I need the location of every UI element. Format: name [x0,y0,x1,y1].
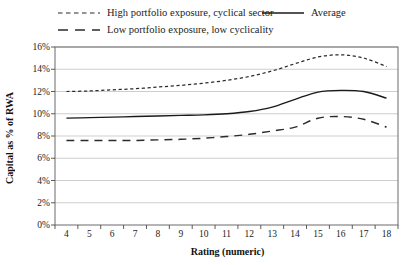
x-axis-tick-label: 17 [352,229,376,239]
x-axis-tick-label: 12 [237,229,261,239]
x-axis-tick-label: 15 [306,229,330,239]
x-axis-tick-label: 11 [215,229,239,239]
x-axis-tick-label: 18 [375,229,399,239]
x-axis-tick-label: 14 [283,229,307,239]
x-axis-title: Rating (numeric) [55,246,400,257]
x-axis-tick-label: 8 [146,229,170,239]
x-axis-tick-label: 16 [329,229,353,239]
x-axis-tick-label: 6 [100,229,124,239]
x-axis-tick-label: 7 [123,229,147,239]
x-axis-tick-label: 9 [169,229,193,239]
x-axis-tick-label: 10 [192,229,216,239]
x-axis-tick-label: 4 [54,229,78,239]
x-axis-tick-labels: 456789101112131415161718 [0,0,415,265]
chart-container: High portfolio exposure, cyclical sector… [0,0,415,265]
x-axis-tick-label: 5 [77,229,101,239]
x-axis-tick-label: 13 [260,229,284,239]
